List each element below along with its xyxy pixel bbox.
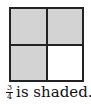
fraction-figure: 3 4 is shaded. <box>0 0 91 104</box>
fraction-grid <box>9 7 84 82</box>
grid-cell-bottom-left-shaded <box>11 46 46 81</box>
grid-cell-top-left-shaded <box>11 9 46 44</box>
caption-text: is shaded. <box>16 83 91 101</box>
figure-caption: 3 4 is shaded. <box>6 83 91 101</box>
fraction: 3 4 <box>6 84 13 101</box>
grid-cell-bottom-right-unshaded <box>48 46 83 81</box>
grid-cell-top-right-shaded <box>48 9 83 44</box>
fraction-denominator: 4 <box>6 93 13 101</box>
